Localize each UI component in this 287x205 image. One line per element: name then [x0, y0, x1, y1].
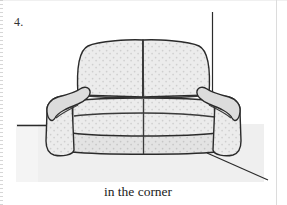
sofa: [46, 40, 241, 156]
worksheet-page: 4.: [0, 0, 287, 205]
back-center-seam: [143, 40, 144, 98]
sofa-illustration: [0, 0, 287, 182]
caption-text: in the corner: [0, 184, 276, 200]
